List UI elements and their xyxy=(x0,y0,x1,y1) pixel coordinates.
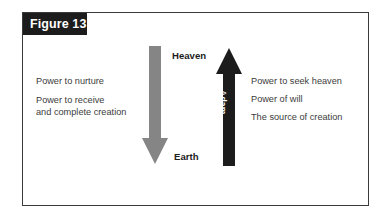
arrow-eve-caption: Eve xyxy=(135,94,145,110)
left-attribute-receive-line1: Power to receive xyxy=(36,95,104,105)
figure-root: Figure 13 Heaven Earth Eve Adam Power to… xyxy=(0,0,390,220)
right-attribute-power-of-will: Power of will xyxy=(251,94,303,106)
left-attribute-receive-line2: and complete creation xyxy=(36,107,126,119)
right-attribute-source-of-creation: The source of creation xyxy=(251,112,342,124)
figure-title-banner: Figure 13 xyxy=(23,13,87,35)
arrow-adam-caption: Adam xyxy=(218,90,228,115)
pole-label-earth: Earth xyxy=(174,151,199,162)
pole-label-heaven: Heaven xyxy=(172,50,206,61)
figure-title-label: Figure 13 xyxy=(30,18,86,31)
right-attribute-seek-heaven: Power to seek heaven xyxy=(251,76,342,88)
left-attribute-receive: Power to receive and complete creation xyxy=(36,95,126,118)
left-attribute-nurture: Power to nurture xyxy=(36,76,104,88)
